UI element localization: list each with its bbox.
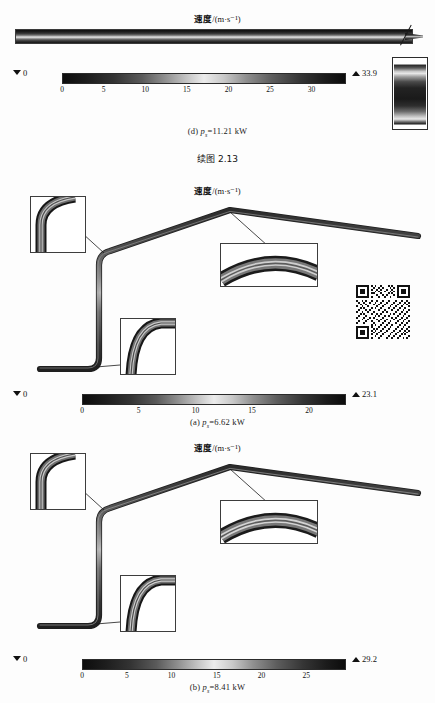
panel-b-caption: (b) ps=8.41 kW (0, 682, 435, 694)
max-triangle-icon (352, 71, 360, 76)
duct-body (15, 29, 413, 44)
tick-25: 25 (303, 671, 311, 680)
tick-0: 0 (80, 406, 84, 415)
panel-d-caption: (d) ps=11.21 kW (0, 126, 435, 138)
panel-d-title-cn: 速度 (194, 14, 212, 24)
panel-d-max-label: 33.9 (352, 68, 377, 78)
panel-a-min-value: 0 (23, 389, 27, 399)
panel-b-min-value: 0 (23, 654, 27, 664)
panel-d-caption-value: =11.21 kW (208, 126, 248, 136)
cross-section-gradient (394, 59, 426, 128)
inset-lower-elbow-b (120, 575, 176, 632)
max-triangle-icon (352, 657, 360, 662)
panel-a-max-value: 23.1 (362, 389, 377, 399)
panel-a-min-label: 0 (13, 389, 27, 399)
tick-20: 20 (258, 671, 266, 680)
max-triangle-icon (352, 392, 360, 397)
panel-b-diagram (0, 432, 435, 657)
inset-apex-a-svg (221, 244, 318, 287)
tick-5: 5 (125, 671, 129, 680)
pipe-fill-b (40, 467, 418, 626)
tick-10: 10 (192, 406, 200, 415)
qr-code-svg (356, 285, 410, 339)
panel-d-caption-prefix: (d) (188, 126, 199, 136)
panel-d-min-label: 0 (13, 68, 27, 78)
panel-a-caption-prefix: (a) (190, 417, 200, 427)
tick-30: 30 (308, 85, 316, 94)
tick-25: 25 (266, 85, 274, 94)
tick-0: 0 (60, 85, 64, 94)
panel-a-max-label: 23.1 (352, 389, 377, 399)
inset-upper-elbow-b-svg (31, 454, 86, 510)
panel-d-title-unit: /(m·s⁻¹) (212, 14, 240, 24)
figure-page: 速度/(m·s⁻¹) 0 0 5 10 15 20 25 (0, 0, 435, 703)
inset-apex-b-svg (221, 501, 318, 544)
tick-5: 5 (102, 85, 106, 94)
panel-b-colorbar (82, 659, 346, 670)
tick-20: 20 (225, 85, 233, 94)
inset-upper-elbow-a (30, 196, 86, 253)
inset-lower-elbow-b-svg (121, 576, 176, 632)
panel-d-max-value: 33.9 (362, 68, 377, 78)
tick-15: 15 (213, 671, 221, 680)
panel-b-max-label: 29.2 (352, 654, 377, 664)
inset-upper-elbow-a-svg (31, 197, 86, 253)
continued-figure-label: 续图 2.13 (0, 152, 435, 165)
min-triangle-icon (13, 391, 21, 396)
inset-lower-elbow-a-svg (121, 319, 176, 375)
panel-d-colorbar (62, 73, 346, 84)
tick-10: 10 (168, 671, 176, 680)
tick-20: 20 (305, 406, 313, 415)
tick-10: 10 (141, 85, 149, 94)
inset-upper-elbow-b (30, 453, 86, 510)
panel-b-max-value: 29.2 (362, 654, 377, 664)
inset-lower-elbow-a (120, 318, 176, 375)
qr-code[interactable] (356, 285, 410, 339)
panel-d-axis-title: 速度/(m·s⁻¹) (0, 12, 435, 24)
panel-a-caption-value: =6.62 kW (209, 417, 245, 427)
tick-0: 0 (80, 671, 84, 680)
panel-a-colorbar (82, 394, 346, 405)
panel-b-caption-prefix: (b) (190, 682, 201, 692)
panel-a-caption: (a) ps=6.62 kW (0, 417, 435, 429)
panel-b-caption-value: =8.41 kW (210, 682, 246, 692)
min-triangle-icon (13, 70, 21, 75)
tick-15: 15 (183, 85, 191, 94)
panel-a-diagram (0, 175, 435, 400)
panel-d-colorbar-ticks: 0 5 10 15 20 25 30 (62, 85, 344, 97)
inset-apex-a (220, 243, 318, 287)
panel-b-min-label: 0 (13, 654, 27, 664)
panel-d-min-value: 0 (23, 68, 27, 78)
tick-15: 15 (248, 406, 256, 415)
duct-tail (405, 33, 423, 40)
tick-5: 5 (137, 406, 141, 415)
panel-d-cross-section-inset (392, 57, 428, 130)
inset-apex-b (220, 500, 318, 544)
min-triangle-icon (13, 656, 21, 661)
